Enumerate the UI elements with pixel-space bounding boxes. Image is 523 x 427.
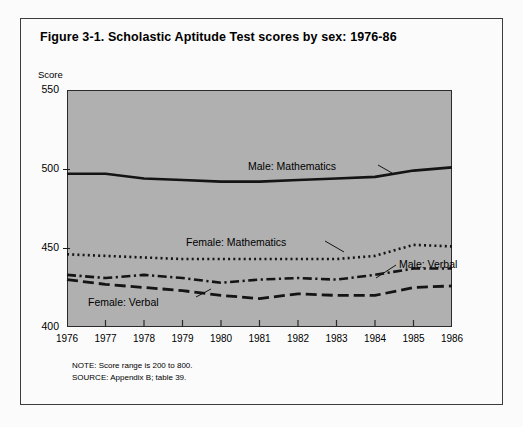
figure-root: Figure 3-1. Scholastic Aptitude Test sco… <box>0 0 523 427</box>
figure-source: SOURCE: Appendix B; table 39. <box>72 372 193 384</box>
figure-notes: NOTE: Score range is 200 to 800. SOURCE:… <box>72 360 193 383</box>
figure-note: NOTE: Score range is 200 to 800. <box>72 360 193 372</box>
